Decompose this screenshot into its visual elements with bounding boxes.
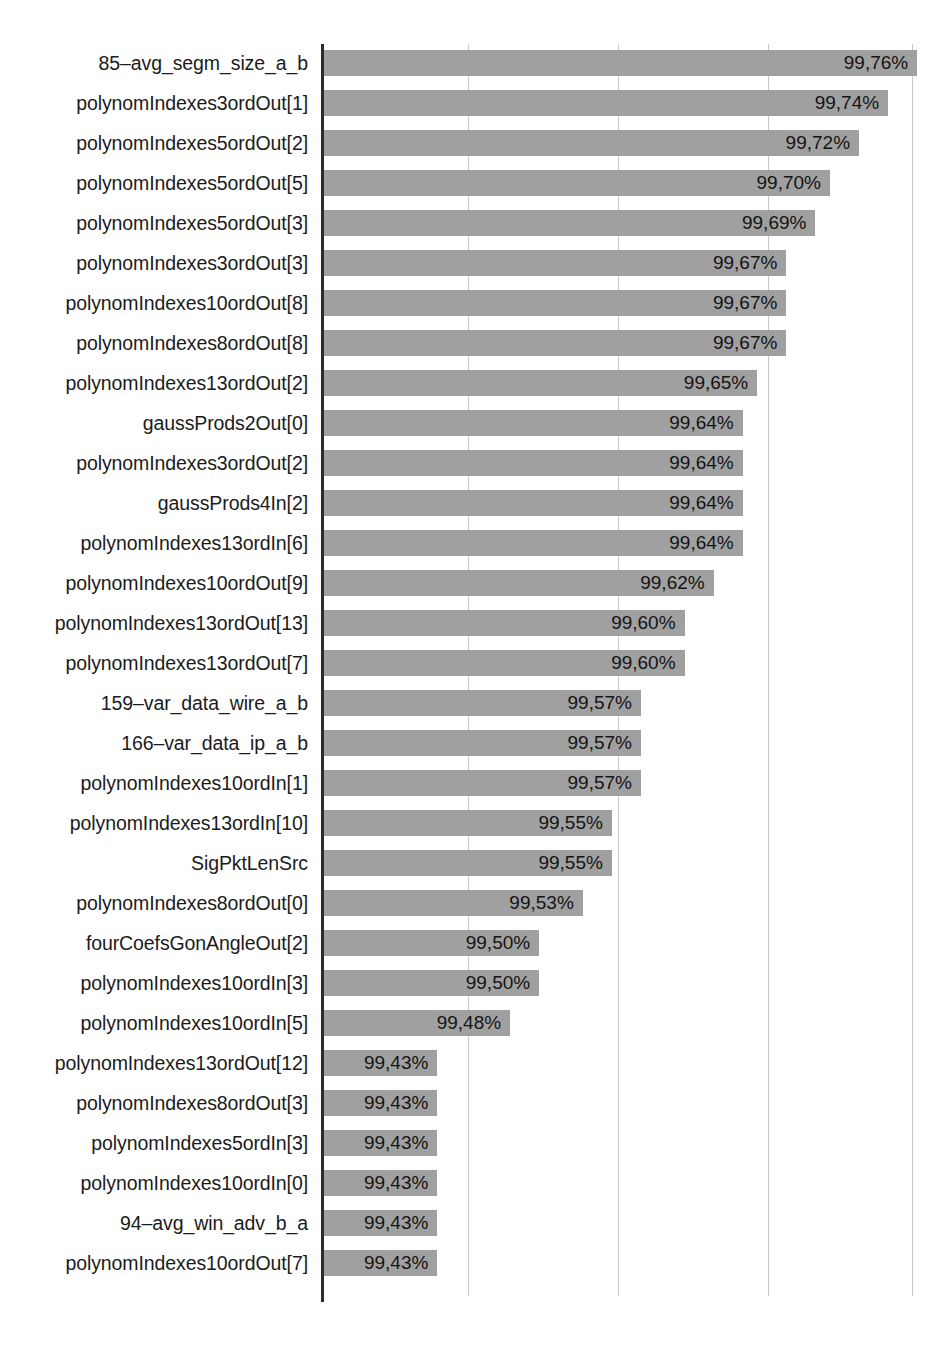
bar-value-label: 99,67% [324, 290, 786, 316]
bar-category-label: polynomIndexes10ordOut[9] [0, 563, 308, 603]
bar-category-label: polynomIndexes13ordIn[10] [0, 803, 308, 843]
bar-track: 99,57% [324, 683, 641, 723]
bar-row: 159–var_data_wire_a_b99,57% [0, 683, 941, 723]
horizontal-bar-chart: 85–avg_segm_size_a_b99,76%polynomIndexes… [0, 0, 941, 1356]
bar-value-label: 99,48% [324, 1010, 510, 1036]
bar-category-label: 166–var_data_ip_a_b [0, 723, 308, 763]
bar-category-label: polynomIndexes3ordOut[1] [0, 83, 308, 123]
bar-value-label: 99,64% [324, 450, 743, 476]
bar-track: 99,60% [324, 643, 685, 683]
bar-value-label: 99,43% [324, 1250, 437, 1276]
bar-category-label: gaussProds4In[2] [0, 483, 308, 523]
bar-category-label: polynomIndexes10ordIn[5] [0, 1003, 308, 1043]
bar-value-label: 99,43% [324, 1050, 437, 1076]
bar-track: 99,57% [324, 723, 641, 763]
bar-track: 99,53% [324, 883, 583, 923]
bar-value-label: 99,74% [324, 90, 888, 116]
bar-row: polynomIndexes3ordOut[2]99,64% [0, 443, 941, 483]
bar-row: polynomIndexes8ordOut[3]99,43% [0, 1083, 941, 1123]
bar-row: polynomIndexes5ordOut[2]99,72% [0, 123, 941, 163]
bar-track: 99,76% [324, 43, 917, 83]
bar-value-label: 99,57% [324, 690, 641, 716]
bar-value-label: 99,62% [324, 570, 714, 596]
bar-row: 166–var_data_ip_a_b99,57% [0, 723, 941, 763]
bar-category-label: polynomIndexes8ordOut[0] [0, 883, 308, 923]
bar-value-label: 99,67% [324, 250, 786, 276]
bar-row: polynomIndexes13ordIn[6]99,64% [0, 523, 941, 563]
bar-value-label: 99,43% [324, 1170, 437, 1196]
bar-track: 99,43% [324, 1123, 437, 1163]
bar-row: polynomIndexes13ordOut[2]99,65% [0, 363, 941, 403]
bar-value-label: 99,69% [324, 210, 815, 236]
bar-category-label: polynomIndexes5ordOut[3] [0, 203, 308, 243]
bar-row: polynomIndexes13ordOut[13]99,60% [0, 603, 941, 643]
bar-row: polynomIndexes5ordIn[3]99,43% [0, 1123, 941, 1163]
bar-category-label: polynomIndexes13ordOut[7] [0, 643, 308, 683]
bar-row: polynomIndexes5ordOut[3]99,69% [0, 203, 941, 243]
bar-category-label: polynomIndexes13ordIn[6] [0, 523, 308, 563]
bar-track: 99,48% [324, 1003, 510, 1043]
bar-track: 99,72% [324, 123, 859, 163]
bar-track: 99,57% [324, 763, 641, 803]
bar-value-label: 99,55% [324, 810, 612, 836]
bar-category-label: polynomIndexes10ordIn[1] [0, 763, 308, 803]
bar-category-label: polynomIndexes13ordOut[13] [0, 603, 308, 643]
bar-row: 85–avg_segm_size_a_b99,76% [0, 43, 941, 83]
bar-value-label: 99,64% [324, 530, 743, 556]
bar-row: polynomIndexes10ordOut[7]99,43% [0, 1243, 941, 1283]
bar-row: polynomIndexes10ordIn[3]99,50% [0, 963, 941, 1003]
bar-category-label: polynomIndexes13ordOut[2] [0, 363, 308, 403]
bar-row: polynomIndexes13ordOut[12]99,43% [0, 1043, 941, 1083]
bar-category-label: polynomIndexes5ordOut[2] [0, 123, 308, 163]
bar-track: 99,67% [324, 323, 786, 363]
bar-track: 99,43% [324, 1043, 437, 1083]
bar-row: polynomIndexes5ordOut[5]99,70% [0, 163, 941, 203]
bar-value-label: 99,67% [324, 330, 786, 356]
bar-row: polynomIndexes10ordIn[5]99,48% [0, 1003, 941, 1043]
bar-track: 99,65% [324, 363, 757, 403]
bar-value-label: 99,50% [324, 970, 539, 996]
bar-value-label: 99,76% [324, 50, 917, 76]
bar-row: gaussProds2Out[0]99,64% [0, 403, 941, 443]
bar-category-label: polynomIndexes8ordOut[3] [0, 1083, 308, 1123]
bar-track: 99,43% [324, 1163, 437, 1203]
bar-track: 99,64% [324, 443, 743, 483]
bar-category-label: polynomIndexes5ordIn[3] [0, 1123, 308, 1163]
bar-category-label: 159–var_data_wire_a_b [0, 683, 308, 723]
bar-track: 99,69% [324, 203, 815, 243]
bar-category-label: polynomIndexes10ordIn[0] [0, 1163, 308, 1203]
bar-value-label: 99,72% [324, 130, 859, 156]
bar-row: polynomIndexes10ordOut[9]99,62% [0, 563, 941, 603]
bar-row: polynomIndexes8ordOut[8]99,67% [0, 323, 941, 363]
bar-category-label: polynomIndexes3ordOut[2] [0, 443, 308, 483]
bar-row: 94–avg_win_adv_b_a99,43% [0, 1203, 941, 1243]
bar-value-label: 99,64% [324, 490, 743, 516]
bar-category-label: 85–avg_segm_size_a_b [0, 43, 308, 83]
bar-category-label: SigPktLenSrc [0, 843, 308, 883]
bar-track: 99,64% [324, 403, 743, 443]
bar-value-label: 99,43% [324, 1090, 437, 1116]
bar-track: 99,55% [324, 843, 612, 883]
bar-track: 99,64% [324, 483, 743, 523]
bar-category-label: fourCoefsGonAngleOut[2] [0, 923, 308, 963]
bar-value-label: 99,53% [324, 890, 583, 916]
bar-category-label: polynomIndexes10ordOut[8] [0, 283, 308, 323]
bar-row: fourCoefsGonAngleOut[2]99,50% [0, 923, 941, 963]
bar-category-label: polynomIndexes3ordOut[3] [0, 243, 308, 283]
bar-value-label: 99,50% [324, 930, 539, 956]
bar-track: 99,67% [324, 283, 786, 323]
bar-row: polynomIndexes10ordIn[1]99,57% [0, 763, 941, 803]
bar-row: gaussProds4In[2]99,64% [0, 483, 941, 523]
bar-track: 99,60% [324, 603, 685, 643]
bar-category-label: polynomIndexes10ordIn[3] [0, 963, 308, 1003]
bar-row: polynomIndexes3ordOut[1]99,74% [0, 83, 941, 123]
bar-row: polynomIndexes13ordOut[7]99,60% [0, 643, 941, 683]
bar-value-label: 99,43% [324, 1130, 437, 1156]
bar-row: SigPktLenSrc99,55% [0, 843, 941, 883]
bar-value-label: 99,70% [324, 170, 830, 196]
bar-value-label: 99,55% [324, 850, 612, 876]
bar-track: 99,64% [324, 523, 743, 563]
bar-value-label: 99,43% [324, 1210, 437, 1236]
bar-category-label: polynomIndexes10ordOut[7] [0, 1243, 308, 1283]
bar-value-label: 99,60% [324, 610, 685, 636]
